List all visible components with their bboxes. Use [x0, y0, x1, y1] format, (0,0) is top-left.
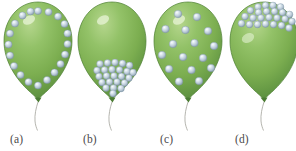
- balloon-panel-a: (a): [2, 0, 76, 151]
- balloon-string: [109, 102, 112, 131]
- balloon-knot: [261, 98, 268, 103]
- panel-label-a: (a): [10, 133, 23, 145]
- balloon-body: [154, 2, 222, 99]
- sphere-cluster-b: [94, 59, 137, 97]
- balloon-string: [185, 102, 188, 131]
- balloon-figure: (a): [0, 0, 296, 151]
- balloon-panel-d: (d): [228, 0, 296, 151]
- balloon-b-graphic: [76, 0, 150, 132]
- balloon-c-graphic: [152, 0, 226, 132]
- balloon-d-graphic: [228, 0, 296, 132]
- panel-label-d: (d): [235, 133, 249, 145]
- balloon-knot: [185, 98, 192, 103]
- balloon-string: [261, 102, 264, 131]
- balloon-panel-c: (c): [152, 0, 226, 151]
- balloon-knot: [35, 98, 42, 103]
- balloon-panel-b: (b): [76, 0, 150, 151]
- panel-label-b: (b): [83, 133, 97, 145]
- balloon-a-graphic: [2, 0, 76, 132]
- panel-label-c: (c): [160, 133, 173, 145]
- balloon-knot: [109, 98, 116, 103]
- balloon-string: [35, 102, 38, 131]
